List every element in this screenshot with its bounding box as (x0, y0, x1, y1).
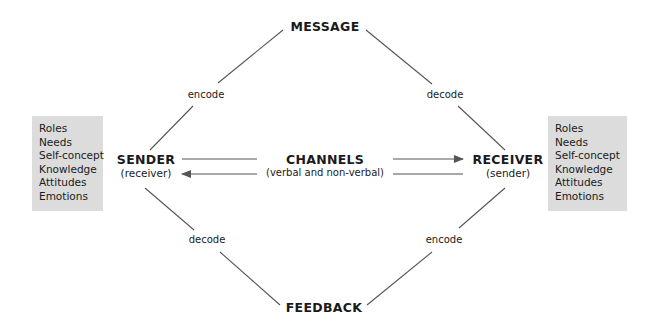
channels-node: CHANNELS (verbal and non-verbal) (258, 152, 392, 179)
attribute-item: Needs (39, 136, 97, 150)
feedback-title: FEEDBACK (282, 300, 366, 315)
receiver-subtitle: (sender) (470, 167, 546, 179)
line-sender-feedback-lower (220, 252, 280, 305)
receiver-attributes-box: Roles Needs Self-concept Knowledge Attit… (548, 116, 627, 211)
edge-label-decode-receiver: decode (422, 89, 468, 100)
sender-title: SENDER (112, 152, 180, 167)
attribute-item: Self-concept (555, 149, 621, 163)
attribute-item: Emotions (555, 190, 621, 204)
attribute-item: Needs (555, 136, 621, 150)
receiver-node: RECEIVER (sender) (470, 152, 546, 179)
edge-label-encode-receiver: encode (421, 234, 467, 245)
attribute-item: Knowledge (39, 163, 97, 177)
line-sender-message-lower (150, 106, 193, 150)
attribute-item: Roles (39, 122, 97, 136)
message-title: MESSAGE (284, 19, 366, 34)
edge-label-encode-sender: encode (183, 89, 229, 100)
channels-title: CHANNELS (258, 152, 392, 167)
sender-node: SENDER (receiver) (112, 152, 180, 179)
feedback-node: FEEDBACK (282, 300, 366, 315)
attribute-item: Knowledge (555, 163, 621, 177)
edge-label-decode-sender: decode (184, 234, 230, 245)
channels-subtitle: (verbal and non-verbal) (258, 167, 392, 179)
line-receiver-feedback-lower (367, 252, 432, 305)
attribute-item: Attitudes (555, 176, 621, 190)
attribute-item: Attitudes (39, 176, 97, 190)
line-receiver-feedback-upper (459, 188, 505, 228)
line-message-receiver-upper (366, 30, 432, 84)
receiver-title: RECEIVER (470, 152, 546, 167)
attribute-item: Emotions (39, 190, 97, 204)
attribute-item: Roles (555, 122, 621, 136)
line-sender-message-upper (218, 30, 283, 83)
line-message-receiver-lower (458, 106, 505, 150)
sender-attributes-box: Roles Needs Self-concept Knowledge Attit… (32, 116, 103, 211)
attribute-item: Self-concept (39, 149, 97, 163)
line-sender-feedback-upper (145, 188, 194, 230)
message-node: MESSAGE (284, 19, 366, 34)
sender-subtitle: (receiver) (112, 167, 180, 179)
